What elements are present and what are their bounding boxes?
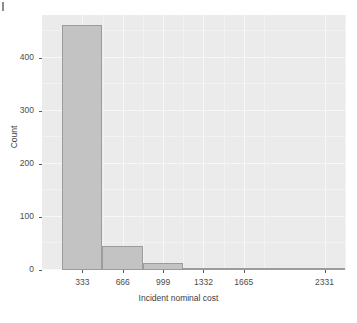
y-axis-tick: [39, 58, 42, 59]
histogram-figure: 0100200300400 333666999133216652331 Inci…: [0, 0, 357, 323]
gridline-vertical: [163, 15, 164, 270]
x-axis-tick: [123, 270, 124, 273]
x-axis-tick: [244, 270, 245, 273]
gridline-vertical-minor: [143, 15, 144, 270]
y-axis-tick: [39, 217, 42, 218]
y-axis-tick-label: 100: [0, 212, 34, 221]
x-axis-tick: [325, 270, 326, 273]
gridline-vertical-minor: [264, 15, 265, 270]
y-axis-title: Count: [9, 97, 19, 177]
y-axis-tick: [39, 164, 42, 165]
y-axis-tick-label: 0: [0, 265, 34, 274]
gridline-vertical: [325, 15, 326, 270]
y-axis-tick: [39, 270, 42, 271]
gridline-vertical-minor: [103, 15, 104, 270]
gridline-vertical: [244, 15, 245, 270]
y-axis-tick: [39, 111, 42, 112]
plot-panel: [42, 15, 345, 270]
x-axis-tick: [163, 270, 164, 273]
histogram-bar: [143, 263, 183, 270]
scan-artifact-mark: [2, 2, 4, 11]
x-axis-title: Incident nominal cost: [0, 293, 357, 303]
histogram-bar: [102, 246, 142, 270]
histogram-bar: [264, 268, 304, 270]
histogram-bar: [62, 25, 102, 270]
gridline-vertical-minor: [345, 15, 346, 270]
y-axis-tick-label: 400: [0, 53, 34, 62]
x-axis-tick: [82, 270, 83, 273]
gridline-vertical-minor: [183, 15, 184, 270]
x-axis-tick-label: 2331: [295, 277, 355, 287]
gridline-vertical-minor: [224, 15, 225, 270]
x-axis-tick: [203, 270, 204, 273]
x-axis-tick-label: 1665: [214, 277, 274, 287]
gridline-vertical: [203, 15, 204, 270]
gridline-vertical: [123, 15, 124, 270]
